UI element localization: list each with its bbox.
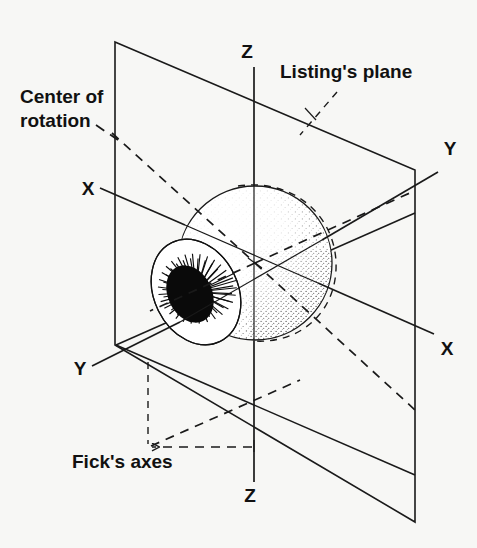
axis-label-y-upper-right: Y [444, 138, 457, 159]
axis-label-y-lower-left: Y [74, 358, 87, 379]
figure-root: Z Z X X Y Y Listing's plane Center of ro… [0, 0, 477, 548]
center-of-rotation-label-line2: rotation [20, 110, 91, 131]
diagram-canvas: Z Z X X Y Y Listing's plane Center of ro… [0, 0, 477, 548]
axis-label-z-top: Z [241, 41, 253, 62]
axis-label-x-lower-right: X [441, 338, 454, 359]
ficks-axes-label: Fick's axes [72, 451, 173, 472]
axis-label-x-upper-left: X [82, 178, 95, 199]
listings-plane-label: Listing's plane [280, 61, 412, 82]
axis-label-z-bottom: Z [244, 485, 256, 506]
center-of-rotation-label-line1: Center of [20, 86, 104, 107]
